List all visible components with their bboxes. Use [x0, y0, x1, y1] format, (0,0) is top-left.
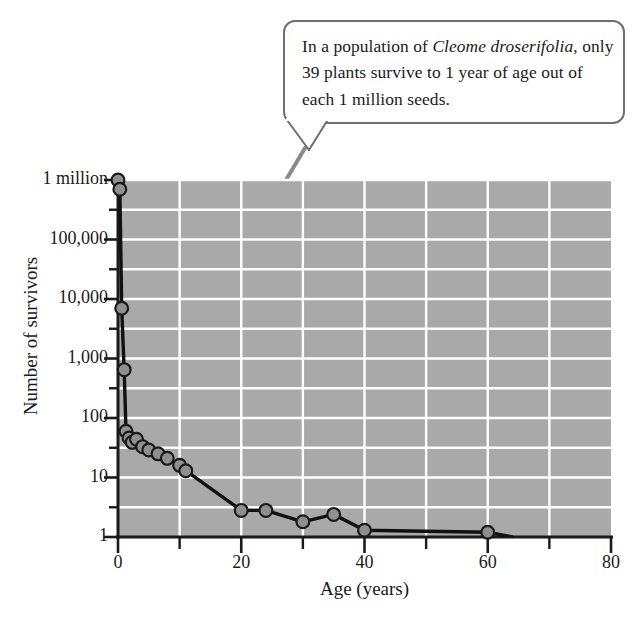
callout-line1-pre: In a population of — [302, 36, 432, 56]
data-point-marker — [296, 515, 309, 528]
data-point-marker — [161, 452, 174, 465]
annotation-callout-text: In a population of Cleome droserifolia, … — [302, 33, 614, 112]
survivorship-curve-figure: 1101001,00010,000100,0001 million 020406… — [0, 0, 644, 626]
data-point-marker — [235, 504, 248, 517]
y-axis-tick-marks — [104, 180, 118, 537]
data-point-marker — [115, 302, 128, 315]
data-point-marker — [481, 526, 494, 539]
annotation-callout-box: In a population of Cleome droserifolia, … — [283, 20, 625, 124]
y-axis-title: Number of survivors — [20, 221, 42, 451]
data-point-marker — [113, 183, 126, 196]
data-point-marker — [179, 464, 192, 477]
data-point-marker — [327, 508, 340, 521]
x-axis-title: Age (years) — [118, 578, 611, 600]
data-point-marker — [358, 524, 371, 537]
data-point-marker — [118, 363, 131, 376]
callout-tail — [283, 118, 343, 152]
callout-line1-post: , — [573, 36, 577, 56]
callout-species-name: Cleome droserifolia — [432, 36, 573, 56]
x-axis-tick-marks — [118, 537, 611, 553]
data-point-marker — [260, 504, 273, 517]
